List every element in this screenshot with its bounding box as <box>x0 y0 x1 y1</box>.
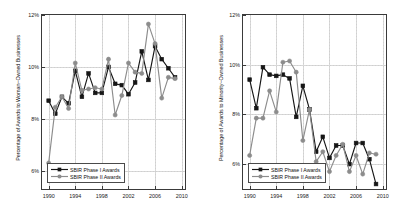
data-point-circle <box>261 116 265 120</box>
data-point-circle <box>106 57 110 61</box>
x-tick-label: 2010 <box>176 193 188 199</box>
legend-label: SBIR Phase II Awards <box>70 174 121 180</box>
y-tick-label: 8% <box>31 116 39 122</box>
data-point-circle <box>307 107 311 111</box>
legend: SBIR Phase I AwardsSBIR Phase II Awards <box>248 163 326 183</box>
data-point-circle <box>67 106 71 110</box>
x-tick-label: 2006 <box>350 193 362 199</box>
data-point-circle <box>301 138 305 142</box>
data-point-square <box>87 72 91 76</box>
data-point-circle <box>93 86 97 90</box>
y-tick-label: 10% <box>229 62 240 68</box>
data-point-circle <box>73 61 77 65</box>
legend-label: SBIR Phase II Awards <box>271 174 322 180</box>
figure-two-panel-line-charts: Percentage of Awards to Woman−Owned Busi… <box>0 0 402 220</box>
data-point-circle <box>87 87 91 91</box>
data-point-square <box>261 65 265 69</box>
data-point-square <box>140 50 144 54</box>
data-point-square <box>301 84 305 88</box>
data-point-circle <box>327 170 331 174</box>
data-point-square <box>80 95 84 99</box>
legend-swatch <box>50 166 69 173</box>
x-tick-label: 1994 <box>270 193 282 199</box>
data-point-square <box>321 135 325 139</box>
data-point-circle <box>153 42 157 46</box>
data-point-circle <box>268 89 272 93</box>
y-tick-label: 10% <box>28 64 39 70</box>
data-point-square <box>328 156 332 160</box>
data-point-square <box>354 141 358 145</box>
data-point-square <box>274 74 278 78</box>
data-point-square <box>268 73 272 77</box>
x-tick-label: 1990 <box>43 193 55 199</box>
legend-item-phase-2: SBIR Phase II Awards <box>50 173 121 180</box>
data-point-circle <box>140 71 144 75</box>
data-point-square <box>127 92 131 96</box>
legend-item-phase-2: SBIR Phase II Awards <box>251 173 322 180</box>
data-point-circle <box>334 153 338 157</box>
x-tick-label: 1998 <box>297 193 309 199</box>
series-phase-2 <box>248 59 378 176</box>
data-point-circle <box>281 60 285 64</box>
data-point-circle <box>341 142 345 146</box>
legend-label: SBIR Phase I Awards <box>70 167 120 173</box>
data-point-square <box>133 81 137 85</box>
legend-item-phase-1: SBIR Phase I Awards <box>251 166 322 173</box>
x-tick-label: 2002 <box>323 193 335 199</box>
data-point-circle <box>53 105 57 109</box>
x-tick-label: 2010 <box>377 193 389 199</box>
data-point-circle <box>274 110 278 114</box>
legend-label: SBIR Phase I Awards <box>271 167 321 173</box>
data-point-circle <box>347 170 351 174</box>
plot-area-woman-owned: 6%8%10%12%199019941998200220062010SBIR P… <box>41 14 186 190</box>
data-point-square <box>374 182 378 186</box>
x-tick-label: 2006 <box>149 193 161 199</box>
data-point-square <box>167 66 171 70</box>
panel-minority-owned: Percentage of Awards to Minority−Owned B… <box>201 0 402 220</box>
y-tick-label: 8% <box>232 111 240 117</box>
data-point-circle <box>374 152 378 156</box>
data-point-circle <box>367 151 371 155</box>
data-point-square <box>147 78 151 82</box>
data-point-square <box>294 115 298 119</box>
x-tick-label: 1990 <box>244 193 256 199</box>
data-point-square <box>288 77 292 81</box>
data-point-circle <box>80 88 84 92</box>
data-point-circle <box>288 59 292 63</box>
data-point-square <box>361 141 365 145</box>
data-point-circle <box>166 75 170 79</box>
y-tick-label: 6% <box>232 161 240 167</box>
data-point-square <box>254 106 258 110</box>
y-axis-label: Percentage of Awards to Woman−Owned Busi… <box>15 18 21 178</box>
data-point-circle <box>361 172 365 176</box>
data-point-square <box>334 144 338 148</box>
y-axis-label: Percentage of Awards to Minority−Owned B… <box>218 18 224 178</box>
data-point-circle <box>126 61 130 65</box>
data-point-square <box>93 91 97 95</box>
series-phase-2 <box>47 22 177 165</box>
data-point-square <box>248 78 252 82</box>
panel-woman-owned: Percentage of Awards to Woman−Owned Busi… <box>0 0 201 220</box>
data-point-circle <box>321 150 325 154</box>
legend: SBIR Phase I AwardsSBIR Phase II Awards <box>47 163 125 183</box>
y-tick-label: 12% <box>229 12 240 18</box>
x-tick-label: 2002 <box>122 193 134 199</box>
legend-swatch <box>251 166 270 173</box>
data-point-circle <box>146 22 150 26</box>
x-tick-label: 1998 <box>96 193 108 199</box>
data-point-circle <box>173 77 177 81</box>
data-point-circle <box>60 95 64 99</box>
data-point-circle <box>133 70 137 74</box>
legend-item-phase-1: SBIR Phase I Awards <box>50 166 121 173</box>
plot-area-minority-owned: 6%8%10%12%199019941998200220062010SBIR P… <box>242 14 387 190</box>
y-tick-label: 12% <box>28 12 39 18</box>
x-tick-label: 1994 <box>69 193 81 199</box>
legend-swatch <box>50 173 69 180</box>
data-point-circle <box>160 96 164 100</box>
data-point-circle <box>294 70 298 74</box>
data-point-circle <box>354 153 358 157</box>
data-point-square <box>160 57 164 61</box>
data-point-circle <box>248 153 252 157</box>
data-point-circle <box>254 116 258 120</box>
legend-swatch <box>251 173 270 180</box>
